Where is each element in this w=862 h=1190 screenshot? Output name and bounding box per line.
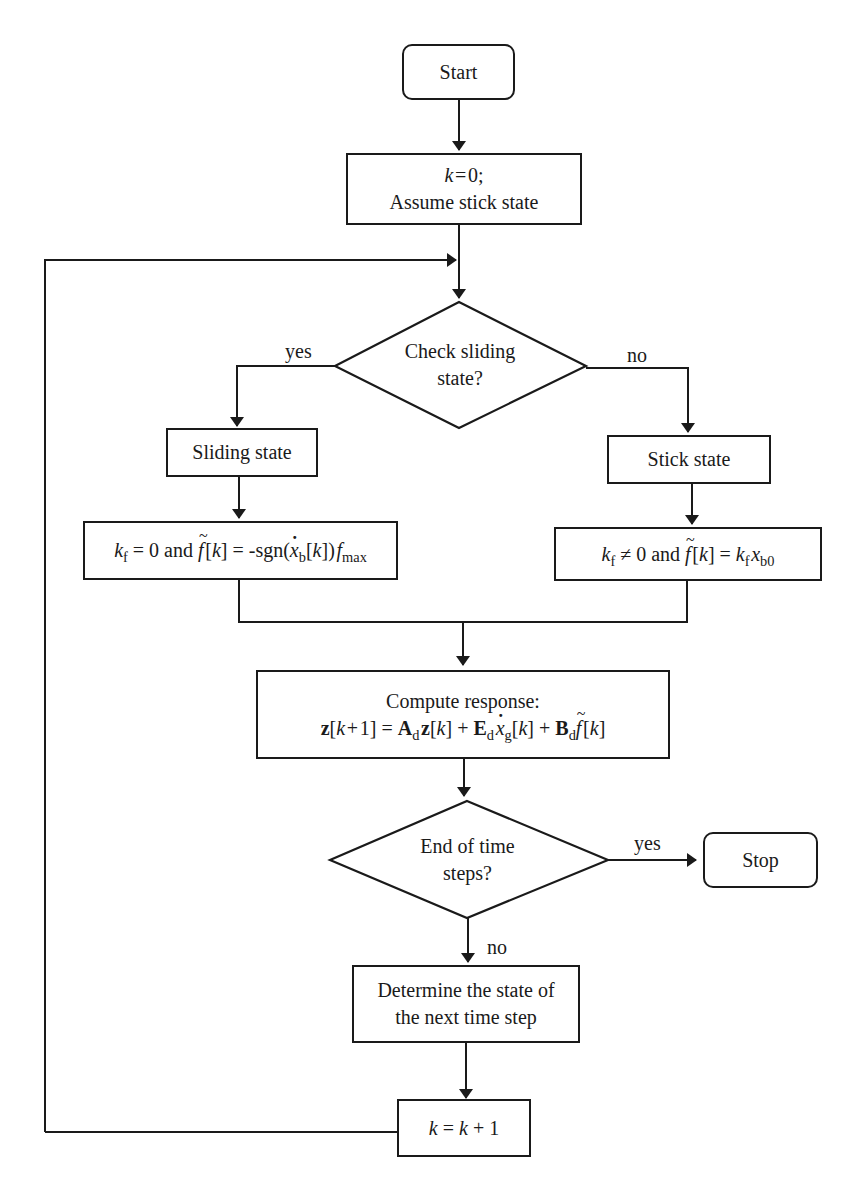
end-of-time-steps-decision: End of time steps?	[380, 826, 555, 894]
flowchart-canvas: Start k = 0; Assume stick state Check sl…	[0, 0, 862, 1190]
stop-node: Stop	[703, 832, 818, 888]
determine-line1: Determine the state of	[377, 977, 554, 1004]
increment-node: k = k + 1	[397, 1099, 531, 1157]
stick-formula-node: kf ≠ 0 and f [k] = kf xb0	[554, 527, 822, 581]
start-label: Start	[440, 59, 478, 86]
sliding-state-label: Sliding state	[192, 439, 291, 466]
determine-state-node: Determine the state of the next time ste…	[352, 965, 580, 1043]
end-check-line2: steps?	[443, 860, 492, 887]
sliding-formula-node: kf = 0 and f [k] = -sgn(xb[k]) fmax	[83, 521, 398, 580]
stick-state-node: Stick state	[607, 435, 771, 484]
sliding-no-label: no	[627, 344, 647, 367]
start-node: Start	[402, 44, 515, 100]
determine-line2: the next time step	[395, 1004, 537, 1031]
stick-state-label: Stick state	[648, 446, 731, 473]
init-line2: Assume stick state	[390, 189, 539, 216]
increment-formula: k = k + 1	[429, 1115, 499, 1142]
end-yes-label: yes	[634, 832, 661, 855]
init-line1: k = 0;	[444, 162, 483, 189]
compute-line1: Compute response:	[386, 688, 540, 715]
stick-formula: kf ≠ 0 and f [k] = kf xb0	[602, 541, 775, 568]
stop-label: Stop	[742, 847, 779, 874]
check-sliding-line2: state?	[437, 365, 483, 392]
sliding-yes-label: yes	[285, 340, 312, 363]
check-sliding-decision: Check sliding state?	[360, 330, 560, 400]
compute-formula: z[k + 1] = Ad z[k] + Ed xg[k] + Bdf [k]	[321, 715, 606, 742]
init-node: k = 0; Assume stick state	[346, 153, 582, 225]
sliding-state-node: Sliding state	[166, 428, 318, 477]
check-sliding-line1: Check sliding	[405, 338, 516, 365]
sliding-formula: kf = 0 and f [k] = -sgn(xb[k]) fmax	[114, 537, 367, 564]
compute-response-node: Compute response: z[k + 1] = Ad z[k] + E…	[256, 670, 670, 759]
end-no-label: no	[487, 936, 507, 959]
end-check-line1: End of time	[420, 833, 514, 860]
